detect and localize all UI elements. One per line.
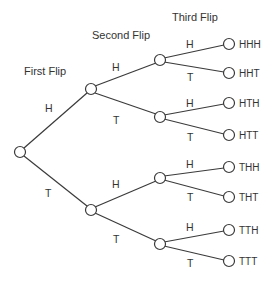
outcome-tth: TTH bbox=[239, 225, 258, 236]
edge-label-third-tht: T bbox=[187, 191, 194, 203]
node-ht bbox=[155, 112, 166, 123]
header-second-flip: Second Flip bbox=[92, 29, 150, 41]
edge-third-ttt bbox=[164, 246, 224, 260]
root-node bbox=[15, 147, 26, 158]
edge-second-th bbox=[95, 181, 156, 207]
edge-first-t bbox=[24, 156, 87, 206]
leaf-node-htt bbox=[224, 130, 235, 141]
leaf-node-ttt bbox=[224, 256, 235, 267]
edge-label-second-th: H bbox=[112, 178, 120, 190]
leaf-node-hhh bbox=[224, 39, 235, 50]
edge-third-hhh bbox=[164, 45, 224, 58]
edge-third-hth bbox=[164, 104, 224, 115]
leaf-node-tth bbox=[224, 225, 235, 236]
outcome-tht: THT bbox=[239, 192, 258, 203]
edge-second-hh bbox=[95, 63, 156, 86]
edge-third-htt bbox=[164, 119, 224, 134]
outcome-hht: HHT bbox=[239, 68, 260, 79]
tree-diagram: First Flip Second Flip Third Flip H T H … bbox=[0, 0, 276, 287]
node-h bbox=[86, 84, 97, 95]
edge-label-first-t: T bbox=[45, 187, 52, 199]
edge-label-second-ht: T bbox=[113, 114, 120, 126]
edge-label-third-hht: T bbox=[187, 71, 194, 83]
outcome-ttt: TTT bbox=[239, 256, 257, 267]
edge-label-third-thh: H bbox=[186, 158, 194, 170]
edge-third-hht bbox=[164, 62, 224, 72]
edge-label-second-hh: H bbox=[112, 61, 120, 73]
leaf-node-tht bbox=[224, 192, 235, 203]
edge-label-third-hth: H bbox=[186, 97, 194, 109]
node-tt bbox=[155, 239, 166, 250]
edge-label-third-hhh: H bbox=[186, 38, 194, 50]
leaf-node-thh bbox=[224, 162, 235, 173]
edge-second-tt bbox=[95, 213, 156, 241]
node-th bbox=[155, 173, 166, 184]
edge-label-third-ttt: T bbox=[187, 257, 194, 269]
header-third-flip: Third Flip bbox=[172, 11, 218, 23]
node-t bbox=[86, 205, 97, 216]
outcome-hth: HTH bbox=[239, 98, 260, 109]
edge-label-first-h: H bbox=[45, 102, 53, 114]
header-first-flip: First Flip bbox=[24, 65, 66, 77]
leaf-node-hht bbox=[224, 68, 235, 79]
edge-third-tht bbox=[164, 180, 224, 196]
leaf-node-hth bbox=[224, 98, 235, 109]
outcome-thh: THH bbox=[239, 162, 260, 173]
edge-first-h bbox=[24, 93, 87, 148]
node-hh bbox=[155, 55, 166, 66]
edge-label-third-htt: T bbox=[187, 131, 194, 143]
outcome-htt: HTT bbox=[239, 130, 258, 141]
edge-third-tth bbox=[164, 231, 224, 242]
edge-third-thh bbox=[164, 168, 224, 176]
edge-label-third-tth: H bbox=[186, 221, 194, 233]
edge-second-ht bbox=[95, 93, 156, 114]
edge-label-second-tt: T bbox=[113, 233, 120, 245]
outcome-hhh: HHH bbox=[239, 39, 261, 50]
